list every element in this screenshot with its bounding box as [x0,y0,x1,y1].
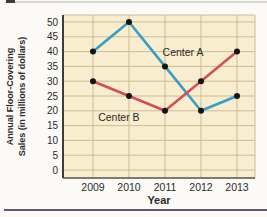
data-point-center-b [234,49,240,55]
y-axis-title-line: Sales (in millions of dollars) [17,37,27,157]
y-tick-label: 30 [47,76,59,87]
y-tick-label: 10 [47,135,59,146]
y-tick-label: 50 [47,17,59,28]
x-tick-label: 2012 [189,181,213,193]
x-tick-label: 2010 [117,181,141,193]
data-point-center-a [234,93,240,99]
data-point-center-b [126,93,132,99]
y-tick-label: 45 [47,31,59,42]
y-tick-label: 35 [47,61,59,72]
floor-covering-sales-line-chart: 0510152025303540455020092010201120122013… [0,0,267,217]
data-point-center-a [90,49,96,55]
y-tick-label: 0 [52,165,58,176]
data-point-center-b [198,78,204,84]
data-point-center-b [162,108,168,114]
data-point-center-a [162,63,168,69]
data-point-center-b [90,78,96,84]
y-tick-label: 5 [52,150,58,161]
x-axis-title: Year [147,194,171,206]
x-tick-label: 2013 [225,181,249,193]
y-tick-label: 15 [47,120,59,131]
bottom-rule-divider [4,209,267,211]
data-point-center-a [126,19,132,25]
series-label-center-b: Center B [98,111,139,123]
y-tick-label: 20 [47,105,59,116]
page-background: 0510152025303540455020092010201120122013… [0,0,267,217]
data-point-center-a [198,108,204,114]
x-tick-label: 2011 [154,181,177,193]
x-tick-label: 2009 [81,181,105,193]
y-tick-label: 25 [47,91,59,102]
series-label-center-a: Center A [163,46,204,58]
y-tick-label: 40 [47,46,59,57]
y-axis-title-line: Annual Floor-Covering [5,48,15,146]
